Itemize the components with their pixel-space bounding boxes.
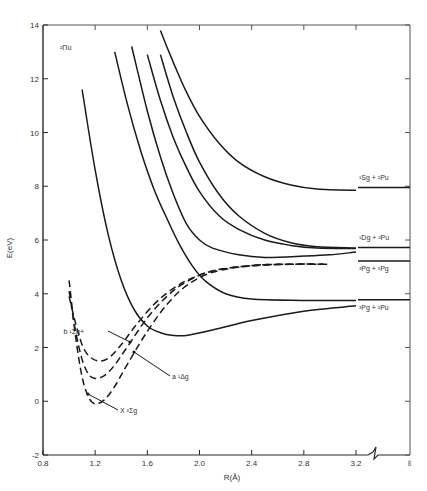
annotations: b ¹Σg+a ¹ΔgX ³Σg [64, 328, 189, 415]
x-tick-label: 3.2 [350, 459, 362, 468]
series-curve-repulsive-8 [160, 30, 356, 190]
axes [43, 25, 410, 459]
y-tick-label: 10 [30, 129, 39, 138]
x-tick-label: 2.4 [246, 459, 258, 468]
state-label: X ³Σg [120, 407, 137, 415]
asymptote-label: ¹Dg + ²Pu [359, 234, 389, 242]
series-curve-repulsive-6 [147, 55, 356, 249]
label-pointer-line [134, 352, 170, 376]
series-curve-repulsive-3 [82, 90, 356, 336]
y-tick-label: 14 [30, 21, 39, 30]
y-tick-label: 2 [35, 344, 40, 353]
state-label: b ¹Σg+ [64, 328, 84, 336]
series-curve-repulsive-7 [160, 55, 356, 249]
x-axis-line-with-break [43, 447, 410, 459]
x-tick-label: 1.2 [90, 459, 102, 468]
potential-energy-chart: -2024681012140.81.21.62.02.42.83.2∞ ¹Sg … [0, 0, 427, 491]
label-pointer-dot [128, 340, 131, 343]
series-curve-bound-0 [69, 264, 330, 404]
y-tick-label: 6 [35, 236, 40, 245]
series-curve-repulsive-4 [115, 52, 356, 301]
x-tick-label: 1.6 [142, 459, 154, 468]
x-tick-label: 0.8 [37, 459, 49, 468]
asymptote-label: ³Pg + ²Pu [359, 304, 389, 312]
y-tick-label: 0 [35, 397, 40, 406]
series-curve-repulsive-5 [132, 47, 356, 258]
label-pointer-dot [86, 392, 89, 395]
y-tick-label: 12 [30, 75, 39, 84]
curves [69, 30, 356, 404]
asymptote-label: ³Pg + ³Pg [359, 265, 389, 273]
series-curve-bound-1 [69, 264, 323, 378]
asymptotes: ¹Sg + ²Pu¹Dg + ²Pu³Pg + ³Pg³Pg + ²Pu [358, 174, 410, 312]
x-axis-title: R(Å) [224, 473, 241, 482]
y-axis-title: E(eV) [5, 237, 14, 258]
y-tick-label: 4 [35, 290, 40, 299]
y-tick-label: 8 [35, 182, 40, 191]
label-pointer-dot [132, 350, 135, 353]
ticks: -2024681012140.81.21.62.02.42.83.2∞ [30, 21, 414, 468]
symmetry-label: ²Πu [60, 44, 71, 51]
x-tick-label: 2.0 [194, 459, 206, 468]
state-label: a ¹Δg [172, 373, 189, 381]
x-tick-label: 2.8 [298, 459, 310, 468]
asymptote-label: ¹Sg + ²Pu [359, 174, 389, 182]
x-tick-label-infinity: ∞ [405, 460, 414, 466]
